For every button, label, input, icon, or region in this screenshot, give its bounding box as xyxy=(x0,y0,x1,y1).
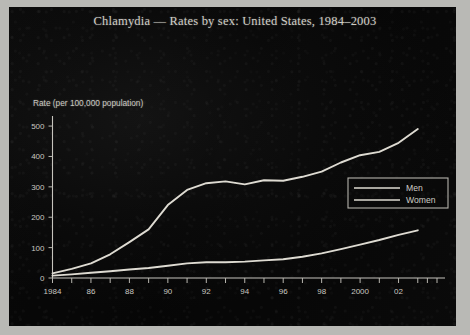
y-tick-label: 500 xyxy=(31,122,45,131)
y-axis: 0100200300400500 xyxy=(31,116,52,283)
y-tick-label: 400 xyxy=(31,152,45,161)
x-tick-label: 02 xyxy=(394,287,403,296)
chart-plot-area: 0100200300400500 19848688909294969820000… xyxy=(0,0,470,335)
x-tick-label: 2000 xyxy=(351,287,369,296)
slide-photo-frame: Chlamydia — Rates by sex: United States,… xyxy=(0,0,470,335)
chart-legend: MenWomen xyxy=(348,178,448,208)
legend-label-men[interactable]: Men xyxy=(406,183,423,193)
x-tick-label: 1984 xyxy=(44,287,62,296)
x-tick-label: 88 xyxy=(125,287,134,296)
x-tick-label: 92 xyxy=(202,287,211,296)
legend-label-women[interactable]: Women xyxy=(406,195,436,205)
x-tick-label: 96 xyxy=(279,287,288,296)
series-line-men xyxy=(53,230,418,275)
y-tick-label: 0 xyxy=(40,274,45,283)
x-axis: 198486889092949698200002 xyxy=(44,278,445,296)
x-tick-label: 98 xyxy=(317,287,326,296)
x-tick-label: 90 xyxy=(163,287,172,296)
y-tick-label: 100 xyxy=(31,244,45,253)
y-tick-label: 300 xyxy=(31,183,45,192)
x-tick-label: 94 xyxy=(240,287,249,296)
y-tick-label: 200 xyxy=(31,213,45,222)
x-tick-label: 86 xyxy=(86,287,95,296)
